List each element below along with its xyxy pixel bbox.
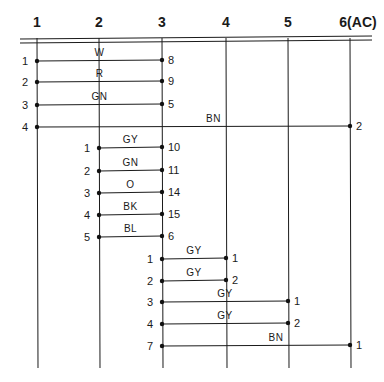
wire-color-label: BK — [123, 201, 137, 212]
to-pin-label: 1 — [294, 295, 300, 307]
wire-line — [162, 280, 226, 281]
from-pin-label: 5 — [84, 231, 90, 243]
column-line-2 — [99, 38, 100, 368]
terminal-dot — [160, 257, 164, 261]
from-pin-label: 2 — [147, 275, 153, 287]
terminal-dot — [160, 168, 164, 172]
terminal-dot — [160, 58, 164, 62]
wire: 415BK — [84, 201, 180, 221]
to-pin-label: 11 — [168, 164, 179, 176]
wire: 110GY — [84, 134, 180, 154]
column-line-6 — [350, 38, 351, 368]
to-pin-label: 9 — [168, 75, 174, 87]
terminal-dot — [160, 79, 164, 83]
from-pin-label: 2 — [84, 165, 90, 177]
terminal-dot — [160, 102, 164, 106]
terminal-dot — [160, 279, 164, 283]
from-pin-label: 4 — [84, 209, 90, 221]
wiring-diagram: 123456(AC) 18W29R35GN42BN110GY211GN314O4… — [0, 0, 384, 382]
terminal-dot — [97, 146, 101, 150]
from-pin-label: 1 — [84, 142, 90, 154]
wire-color-label: GN — [92, 91, 108, 102]
column-header-2: 2 — [95, 14, 103, 30]
wire-line — [162, 301, 288, 302]
to-pin-label: 2 — [294, 317, 300, 329]
from-pin-label: 4 — [22, 121, 28, 133]
terminal-dot — [224, 278, 228, 282]
terminal-dot — [160, 212, 164, 216]
wire: 11GY — [147, 245, 238, 265]
wire: 314O — [84, 179, 180, 199]
terminal-dot — [224, 256, 228, 260]
to-pin-label: 2 — [356, 120, 362, 132]
wire-line — [37, 60, 162, 61]
wire: 22GY — [147, 267, 238, 287]
to-pin-label: 6 — [168, 230, 174, 242]
from-pin-label: 3 — [22, 99, 28, 111]
terminal-dot — [97, 191, 101, 195]
terminal-dot — [160, 234, 164, 238]
column-header-4: 4 — [222, 14, 230, 30]
to-pin-label: 5 — [168, 98, 174, 110]
wire-line — [99, 192, 162, 193]
wire: 42BN — [22, 113, 362, 133]
wire: 71BN — [147, 332, 362, 352]
from-pin-label: 1 — [147, 253, 153, 265]
wire-line — [162, 345, 350, 346]
from-pin-label: 4 — [147, 318, 153, 330]
wire-line — [37, 126, 350, 127]
terminal-dot — [160, 190, 164, 194]
wire-line — [99, 147, 162, 148]
header-rule-top — [20, 36, 372, 39]
wire-line — [37, 104, 162, 105]
terminal-dot — [160, 322, 164, 326]
wire-line — [162, 258, 226, 259]
wire-group: 18W29R35GN42BN110GY211GN314O415BK56BL11G… — [22, 47, 362, 352]
column-header-5: 5 — [284, 14, 292, 30]
column-line-5 — [288, 38, 289, 368]
column-line-3 — [162, 38, 163, 368]
wire-color-label: GY — [186, 267, 201, 278]
column-header-6: 6(AC) — [339, 14, 376, 30]
wire-color-label: GY — [217, 288, 232, 299]
wire: 56BL — [84, 223, 174, 243]
from-pin-label: 3 — [84, 187, 90, 199]
terminal-dot — [35, 103, 39, 107]
header-rule-bottom — [20, 40, 372, 43]
to-pin-label: 1 — [232, 252, 238, 264]
wire-color-label: BN — [206, 113, 221, 124]
wire-color-label: GN — [123, 157, 139, 168]
wire-line — [99, 236, 162, 237]
terminal-dot — [160, 145, 164, 149]
terminal-dot — [35, 59, 39, 63]
terminal-dot — [348, 124, 352, 128]
from-pin-label: 3 — [147, 296, 153, 308]
terminal-dot — [160, 300, 164, 304]
to-pin-label: 15 — [168, 208, 180, 220]
terminal-dot — [97, 169, 101, 173]
terminal-dot — [35, 80, 39, 84]
wire-line — [162, 323, 288, 324]
column-header-1: 1 — [33, 14, 41, 30]
wire: 35GN — [22, 91, 174, 111]
to-pin-label: 1 — [356, 339, 362, 351]
terminal-dot — [348, 343, 352, 347]
wire-line — [37, 81, 162, 82]
wire-color-label: O — [126, 179, 134, 190]
wire-color-label: W — [95, 47, 105, 58]
column-header-3: 3 — [158, 14, 166, 30]
wire-color-label: BN — [269, 332, 284, 343]
wire: 18W — [22, 47, 174, 67]
to-pin-label: 8 — [168, 54, 174, 66]
wire: 42GY — [147, 310, 300, 330]
terminal-dot — [97, 213, 101, 217]
to-pin-label: 2 — [232, 274, 238, 286]
terminal-dot — [286, 321, 290, 325]
wire-color-label: GY — [217, 310, 232, 321]
wire-line — [99, 214, 162, 215]
to-pin-label: 10 — [168, 141, 180, 153]
from-pin-label: 7 — [147, 340, 153, 352]
wire: 211GN — [84, 157, 179, 177]
terminal-dot — [160, 344, 164, 348]
from-pin-label: 1 — [22, 55, 28, 67]
